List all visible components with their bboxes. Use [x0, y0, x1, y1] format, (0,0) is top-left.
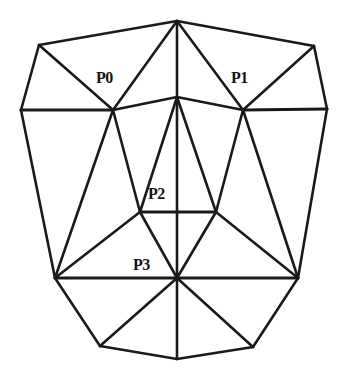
mesh-edge-mouth-center-to-chin-right: [177, 278, 253, 347]
mesh-edge-apex-to-top-right: [177, 21, 314, 46]
face-mesh-diagram: P0 P1 P2 P3: [0, 0, 350, 383]
mesh-edge-left-cheek-to-brow-center: [113, 97, 177, 110]
mesh-edge-apex-to-right-cheek: [177, 21, 243, 110]
mesh-edge-brow-center-to-nose-right: [177, 97, 216, 212]
mesh-edge-top-right-to-right-cheek: [243, 46, 314, 110]
mesh-edge-top-left-to-side-left: [21, 45, 39, 110]
mesh-edge-left-cheek-to-nose-left: [113, 110, 140, 212]
mesh-edge-jaw-left-to-chin-left: [55, 278, 100, 346]
mesh-edge-apex-to-left-cheek: [113, 21, 177, 110]
mesh-edge-group: [21, 21, 327, 359]
mesh-edge-chin-bottom-to-chin-right: [177, 347, 253, 359]
mesh-edge-chin-left-to-chin-bottom: [100, 346, 177, 359]
mesh-edge-nose-right-to-jaw-right: [216, 212, 298, 278]
mesh-edge-mouth-center-to-chin-left: [100, 278, 177, 346]
mesh-edge-left-cheek-to-jaw-left: [55, 110, 113, 278]
mesh-edge-nose-right-to-mouth-center: [177, 212, 216, 278]
mesh-edge-chin-right-to-jaw-right: [253, 278, 298, 347]
mesh-svg-canvas: [0, 0, 350, 383]
vertex-label-p1: P1: [231, 70, 248, 86]
vertex-label-p3: P3: [133, 257, 150, 273]
vertex-label-p0: P0: [96, 70, 113, 86]
vertex-label-p2: P2: [148, 186, 165, 202]
mesh-edge-right-cheek-to-jaw-right: [243, 110, 298, 278]
mesh-edge-side-left-to-jaw-left: [21, 110, 55, 278]
mesh-edge-right-cheek-to-side-right: [243, 109, 327, 110]
mesh-edge-brow-center-to-right-cheek: [177, 97, 243, 110]
mesh-edge-side-right-to-jaw-right: [298, 109, 327, 278]
mesh-edge-right-cheek-to-nose-right: [216, 110, 243, 212]
mesh-edge-apex-to-top-left: [39, 21, 177, 45]
mesh-edge-top-right-to-side-right: [314, 46, 327, 109]
